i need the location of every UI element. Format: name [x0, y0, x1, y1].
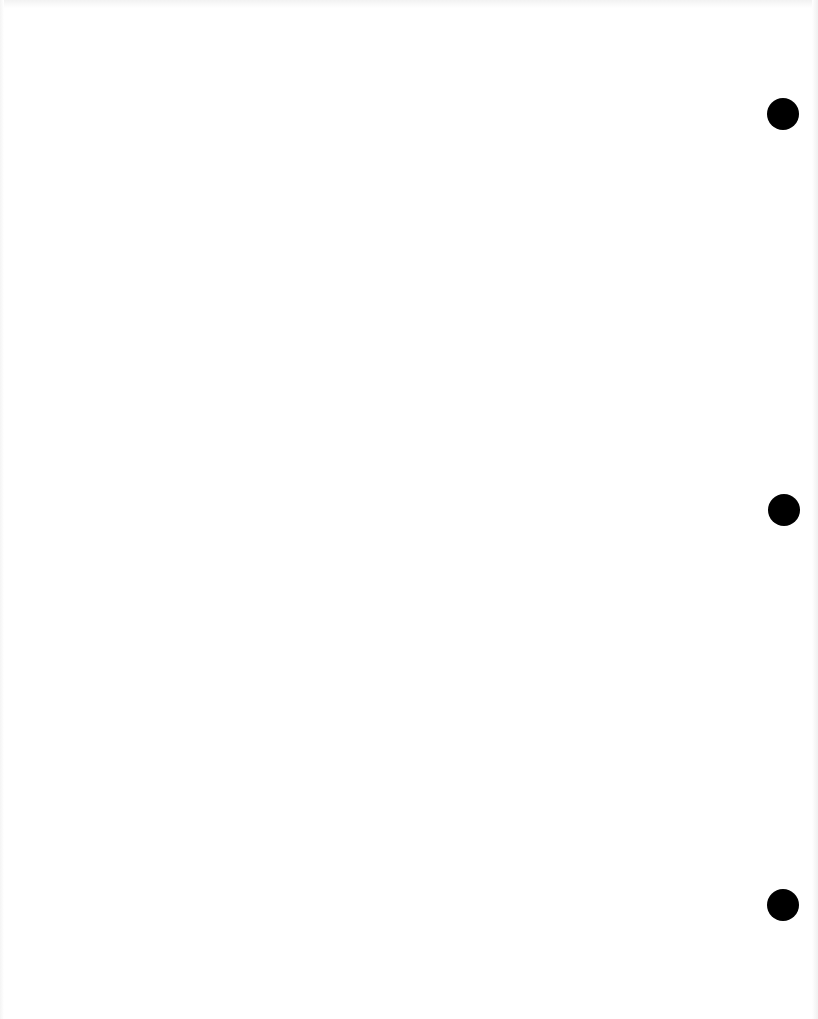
punch-hole-top: [767, 98, 799, 130]
punch-hole-middle: [768, 494, 800, 526]
blank-page: [0, 0, 818, 1019]
punch-hole-bottom: [767, 889, 799, 921]
scan-edge-right: [812, 0, 818, 1019]
scan-edge-left: [0, 0, 4, 1019]
scan-edge-top: [0, 0, 818, 8]
